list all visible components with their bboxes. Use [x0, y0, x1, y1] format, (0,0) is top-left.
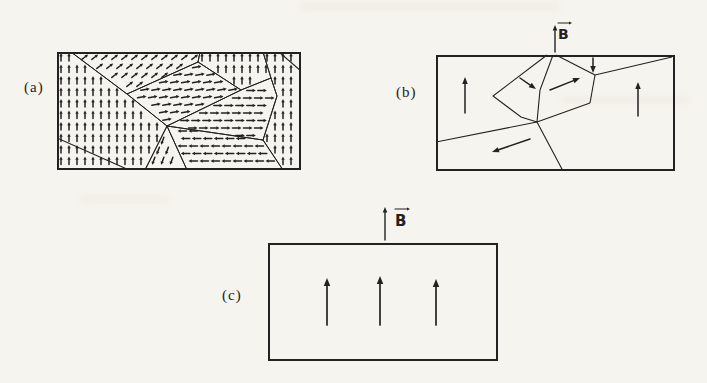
panel-b-svg: B [436, 18, 675, 171]
panel-c-saturated-magnetization-diagram: B [268, 200, 498, 361]
domain-center-left-right [127, 62, 241, 126]
magnetization-arrow-left-bottom-domain [492, 139, 530, 152]
magnetization-arrow-up-right-domain [635, 82, 641, 116]
domain-wall [590, 75, 595, 103]
domain-right-up [263, 52, 301, 170]
panel-b-partially-magnetized-diagram: B [436, 18, 675, 171]
sample-outline [269, 244, 497, 360]
panel-b-label: (b) [396, 83, 417, 101]
magnetization-arrow-up-2 [377, 276, 384, 325]
domain-left-up [57, 52, 167, 170]
b-field-label: B [558, 26, 569, 42]
domain-wall [595, 57, 672, 75]
panel-a-label: (a) [24, 78, 44, 96]
panel-c-svg: B [268, 200, 498, 361]
magnetization-arrow-up-right-pentagon [550, 78, 580, 90]
scan-artifact-left [80, 196, 170, 203]
scan-artifact-top [300, 2, 560, 11]
panel-a-unmagnetized-domains-diagram [57, 52, 301, 170]
domain-wall [537, 55, 553, 122]
magnetization-arrow-down-right-small [520, 78, 536, 89]
magnetization-arrow-down-small [590, 58, 596, 73]
panel-c-label: (c) [222, 286, 242, 304]
domain-wall [537, 103, 590, 122]
domain-wall [556, 55, 595, 75]
domain-wall [436, 122, 537, 142]
b-field-marker: B [383, 207, 410, 240]
magnetization-arrow-up-left-domain [462, 77, 468, 113]
panel-a-svg [57, 52, 301, 170]
magnetization-arrow-up-3 [433, 279, 440, 325]
b-field-marker: B [553, 22, 572, 53]
domain-wall [537, 122, 563, 171]
magnetic-domains-figure: (a) (b) (c) B B [0, 0, 707, 383]
b-field-label: B [395, 212, 406, 230]
domain-top-left-diagonal-up-right [71, 52, 200, 94]
domain-wall [493, 55, 547, 122]
magnetization-arrow-up-1 [324, 278, 331, 325]
domain-top-center-up [198, 52, 271, 90]
